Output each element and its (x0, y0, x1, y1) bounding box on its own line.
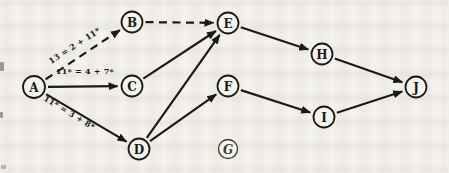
node-letter-B: B (127, 16, 137, 30)
node-E: E (218, 13, 239, 34)
node-letter-C: C (127, 80, 137, 94)
node-letter-F: F (224, 80, 233, 94)
node-J: J (406, 77, 427, 98)
edge-H-J (335, 58, 403, 82)
node-letter-J: J (412, 81, 419, 95)
scanned-book-page: 13 = 2 + 11*11* = 4 + 7*11* = 3 + 8*ABCD… (0, 0, 449, 173)
edge-A-C (48, 86, 118, 87)
edge-D-E (147, 35, 220, 138)
node-letter-G: G (223, 143, 233, 157)
node-B: B (122, 12, 143, 33)
node-A: A (23, 76, 45, 98)
node-I: I (314, 107, 335, 128)
edge-label-A-C: 11* = 4 + 7* (56, 66, 115, 76)
edge-E-H (241, 27, 308, 49)
node-letter-H: H (316, 48, 327, 62)
node-letter-A: A (28, 81, 39, 95)
node-F: F (218, 76, 239, 97)
node-H: H (312, 44, 333, 65)
edge-label-A-D: 11* = 3 + 8* (42, 93, 97, 132)
edge-B-E (145, 22, 213, 23)
node-letter-I: I (321, 111, 327, 125)
node-letter-E: E (223, 17, 232, 31)
edge-F-I (241, 90, 310, 112)
node-G: G (219, 140, 238, 159)
node-C: C (122, 76, 143, 97)
node-D: D (129, 139, 150, 160)
activity-network-diagram: 13 = 2 + 11*11* = 4 + 7*11* = 3 + 8*ABCD… (0, 0, 449, 173)
edge-I-J (337, 91, 402, 112)
node-letter-D: D (134, 143, 144, 157)
